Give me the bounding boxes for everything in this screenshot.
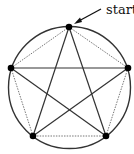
- outer-circle: [9, 27, 131, 149]
- start-arrow: [74, 9, 101, 24]
- vertex-right: [125, 65, 132, 72]
- pentagram-diagram: start: [0, 0, 134, 154]
- vertex-left: [8, 65, 15, 72]
- star-edges-solid: [11, 27, 128, 136]
- vertex-dots: [8, 24, 132, 140]
- vertex-bottom-right: [103, 133, 110, 140]
- start-label: start: [106, 2, 134, 17]
- vertex-top: [66, 24, 73, 31]
- pentagon-edges-dotted: [11, 27, 128, 136]
- vertex-bottom-left: [30, 133, 37, 140]
